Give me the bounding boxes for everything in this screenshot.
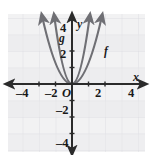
x-tick-label-pos4: 4 xyxy=(128,87,134,100)
y-tick-label-neg4: –4 xyxy=(56,137,69,150)
y-axis-label: y xyxy=(77,18,82,30)
y-tick-label-neg2: –2 xyxy=(56,104,69,117)
y-tick-label-pos2: 2 xyxy=(60,48,66,61)
x-tick-label-pos2: 2 xyxy=(95,87,101,100)
x-tick-label-neg2: –2 xyxy=(45,87,58,100)
graph-figure: '' '' '' xyxy=(0,0,153,155)
x-axis-label: x xyxy=(133,71,139,83)
origin-label: O xyxy=(62,87,71,100)
curve-label-g: g xyxy=(59,33,65,45)
curve-label-f: f xyxy=(104,46,108,58)
x-tick-label-neg4: –4 xyxy=(16,87,29,100)
